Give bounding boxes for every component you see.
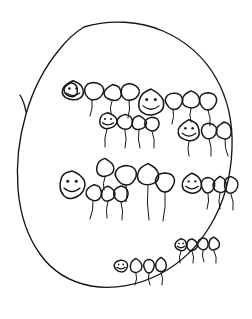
face-eye-left xyxy=(184,127,187,130)
face-eye-right xyxy=(191,127,194,130)
hand-drawn-sketch-image xyxy=(0,0,252,319)
paper-background xyxy=(0,0,252,319)
face-eye-left xyxy=(66,180,69,183)
face-eye-left xyxy=(68,87,71,90)
face-eye-left xyxy=(188,180,190,182)
face-eye-left xyxy=(145,98,148,101)
face-eye-right xyxy=(122,264,124,266)
face-eye-left xyxy=(118,264,120,266)
face-eye-right xyxy=(194,180,196,182)
face-eye-left xyxy=(104,118,106,120)
sketch-canvas: Hand-drawn sketch of balloon-like blooms… xyxy=(0,0,252,319)
face-eye-right xyxy=(182,243,184,245)
face-eye-right xyxy=(154,98,157,101)
face-eye-right xyxy=(110,118,112,120)
face-eye-right xyxy=(75,180,78,183)
face-eye-left xyxy=(178,243,180,245)
